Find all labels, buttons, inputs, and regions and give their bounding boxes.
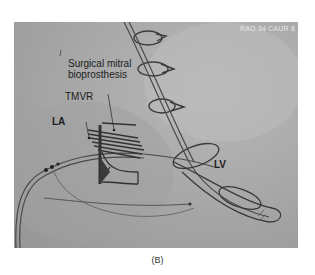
surgical-bioprosthesis-label: Surgical mitral bioprosthesis: [68, 59, 131, 80]
la-label: LA: [52, 117, 65, 128]
fluoroscopy-image: RAO 34 CAUR 8 Surgical mitral bioprosthe…: [14, 22, 298, 248]
surgical-label-line2: bioprosthesis: [68, 70, 131, 81]
surgical-label-line1: Surgical mitral: [68, 59, 131, 70]
lv-label: LV: [214, 160, 226, 171]
panel-caption: (B): [0, 255, 315, 265]
view-angle-label: RAO 34 CAUR 8: [240, 25, 295, 32]
tmvr-label: TMVR: [65, 92, 93, 103]
lv-wire-icon: [170, 138, 281, 222]
fluoroscopy-drawing: [14, 22, 298, 248]
